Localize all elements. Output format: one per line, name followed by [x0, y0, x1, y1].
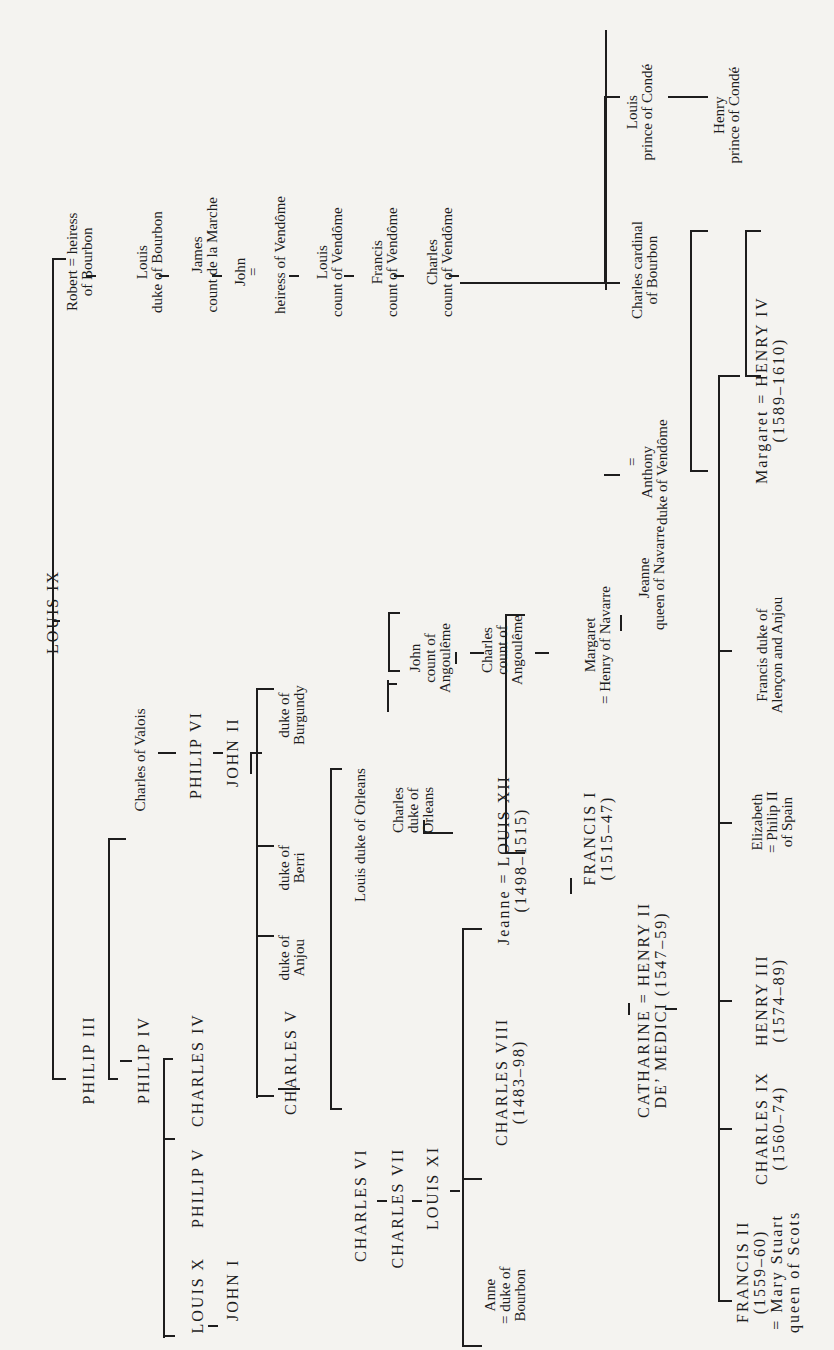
person-label-line: Louis — [315, 207, 330, 317]
connector-line — [163, 1058, 173, 1060]
person-label-line: Angoulême — [438, 623, 453, 693]
person-louis-x: LOUIS X — [189, 1257, 206, 1334]
person-duke-anjou: duke ofAnjou — [277, 935, 307, 980]
person-louis-orleans: Louis duke of Orleans — [353, 768, 368, 902]
person-label-line: duke of — [406, 787, 421, 834]
person-label-line: Angoulême — [510, 615, 525, 685]
person-philip-v: PHILIP V — [189, 1148, 206, 1228]
person-label-line: count de la Marche — [205, 197, 220, 312]
person-charles-vii: CHARLES VII — [389, 1148, 406, 1269]
person-charles-ix: CHARLES IX(1560–74) — [753, 1071, 787, 1185]
person-label-line: FRANCIS I — [581, 791, 598, 886]
person-john-angouleme: Johncount ofAngoulême — [408, 623, 453, 693]
connector-line — [108, 838, 126, 840]
person-label-line: count of Vendôme — [440, 207, 455, 317]
connector-line — [462, 1178, 482, 1180]
person-elizabeth: Elizabeth= Philip IIof Spain — [750, 791, 795, 853]
person-label-line: count of Vendôme — [330, 207, 345, 317]
descent-tick — [289, 275, 299, 277]
person-label-line: PHILIP V — [189, 1148, 206, 1228]
connector-line — [665, 1008, 677, 1010]
person-label-line: of Bourbon — [645, 221, 660, 319]
person-catharine-henry-ii: CATHARINE = HENRY IIDE’ MEDICI (1547–59) — [635, 902, 669, 1118]
person-duke-berri: duke ofBerri — [277, 845, 307, 890]
person-label-line: CHARLES IX — [753, 1071, 770, 1185]
connector-line — [505, 614, 507, 854]
person-label-line: LOUIS X — [189, 1257, 206, 1334]
person-label-line: Charles cardinal — [630, 221, 645, 319]
connector-line — [330, 768, 342, 770]
connector-line — [460, 282, 604, 284]
person-label-line: (1559–60) — [751, 1211, 768, 1333]
person-john-ii: JOHN II — [224, 717, 241, 787]
connector-line — [604, 474, 620, 476]
person-label-line: (1498–1515) — [512, 775, 529, 945]
person-label-line: duke of — [277, 685, 292, 745]
connector-line — [604, 282, 620, 284]
connector-line — [505, 852, 525, 854]
connector-line — [745, 230, 747, 375]
person-label-line: of Bourbon — [80, 213, 95, 311]
person-anthony: Anthonyduke of Vendôme — [640, 419, 670, 525]
person-james-marche: Jamescount de la Marche — [190, 197, 220, 312]
connector-line — [377, 1200, 387, 1202]
descent-tick — [344, 275, 354, 277]
person-label-line: Anthony — [640, 419, 655, 525]
person-charles-valois: Charles of Valois — [133, 708, 148, 811]
person-label-line: heiress of Vendôme — [273, 196, 288, 314]
person-label-line: of Spain — [780, 791, 795, 853]
person-label-line: duke of Vendôme — [655, 419, 670, 525]
person-heiress-vendome: heiress of Vendôme — [273, 196, 288, 314]
person-philip-vi: PHILIP VI — [187, 711, 204, 799]
connector-line — [604, 96, 606, 282]
person-label-line: CATHARINE = HENRY II — [635, 902, 652, 1118]
person-label-line: = Mary Stuart — [768, 1211, 785, 1333]
connector-line — [535, 652, 549, 654]
connector-line — [690, 230, 708, 232]
person-charles-cardinal: Charles cardinalof Bourbon — [630, 221, 660, 319]
person-francis-ii: FRANCIS II(1559–60)= Mary Stuartqueen of… — [734, 1211, 802, 1333]
connector-line — [388, 670, 400, 672]
person-francis-alencon: Francis duke ofAlençon and Anjou — [755, 597, 785, 714]
connector-line — [330, 1108, 342, 1110]
person-label-line: Bourbon — [513, 1266, 528, 1324]
descent-tick — [159, 275, 169, 277]
person-label-line: (1574–89) — [770, 954, 787, 1046]
person-label-line: LOUIS XI — [424, 1146, 441, 1230]
person-label-line: PHILIP III — [80, 1015, 97, 1104]
person-philip-iii: PHILIP III — [80, 1015, 97, 1104]
person-label-line: HENRY III — [753, 954, 770, 1046]
connector-line — [620, 615, 622, 631]
person-label-line: queen of Scots — [785, 1211, 802, 1333]
connector-line — [52, 258, 66, 260]
person-label-line: = Philip II — [765, 791, 780, 853]
person-charles-vendome: Charlescount of Vendôme — [425, 207, 455, 317]
person-francis-vendome: Franciscount of Vendôme — [370, 207, 400, 317]
person-label-line: Robert = heiress — [65, 213, 80, 311]
connector-line — [52, 1078, 66, 1080]
person-charles-v: CHARLES V — [282, 1009, 299, 1115]
person-label-line: Margaret = HENRY IV — [753, 296, 770, 484]
person-label-line: duke of — [277, 935, 292, 980]
person-label-line: count of Vendôme — [385, 207, 400, 317]
connector-line — [52, 258, 54, 1080]
connector-line — [213, 752, 223, 754]
person-charles-vi: CHARLES VI — [352, 1149, 369, 1263]
person-label-line: James — [190, 197, 205, 312]
connector-line — [412, 1200, 422, 1202]
person-label-line: duke of Bourbon — [150, 211, 165, 313]
person-louis-bourbon: Louisduke of Bourbon — [135, 211, 165, 313]
connector-line — [278, 1088, 300, 1090]
person-label-line: CHARLES V — [282, 1009, 299, 1115]
connector-line — [388, 612, 400, 614]
connector-line — [256, 688, 274, 690]
connector-line — [462, 1345, 482, 1347]
person-margaret-henry-iv: Margaret = HENRY IV(1589–1610) — [753, 296, 787, 484]
connector-line — [668, 96, 708, 98]
person-label-line: Charles of Valois — [133, 708, 148, 811]
person-label-line: PHILIP VI — [187, 711, 204, 799]
connector-line — [505, 614, 525, 616]
connector-line — [690, 230, 692, 470]
person-philip-iv: PHILIP IV — [135, 1016, 152, 1104]
connector-line — [455, 652, 457, 664]
